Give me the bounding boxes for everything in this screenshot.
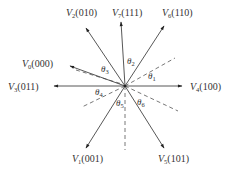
- theta3-label: θ3: [101, 64, 109, 75]
- theta4-label: θ4: [95, 87, 103, 98]
- vectors: [54, 22, 182, 148]
- theta5-label: θ5: [116, 98, 124, 109]
- vector-v5-label: V5(101): [158, 153, 189, 165]
- vector-v7-arrow: [121, 22, 125, 86]
- vector-v0-label: V0(000): [22, 58, 53, 70]
- vector-v2-arrow: [86, 28, 125, 86]
- vector-v2-label: V2(010): [66, 7, 97, 19]
- theta2-label: θ2: [127, 56, 135, 67]
- origin-point: [124, 85, 127, 88]
- dashed-reference-lines: [76, 58, 178, 150]
- theta1-label: θ1: [148, 71, 156, 82]
- vector-v6-label: V6(110): [162, 7, 193, 19]
- vector-v1-label: V1(001): [72, 153, 103, 165]
- vector-v7-label: V7(111): [112, 7, 142, 19]
- vector-v4-label: V4(100): [190, 81, 221, 93]
- vector-v0-arrow: [70, 66, 125, 86]
- vector-v3-label: V3(011): [8, 81, 39, 93]
- space-vector-diagram: V0(000)V1(001)V2(010)V3(011)V4(100)V5(10…: [0, 0, 242, 174]
- theta6-label: θ6: [137, 97, 145, 108]
